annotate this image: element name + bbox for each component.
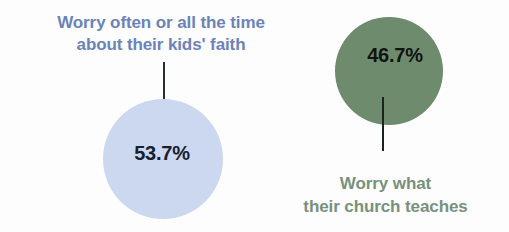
green-label-line-1: Worry what <box>262 172 509 195</box>
green-bubble-value: 46.7% <box>367 44 423 67</box>
blue-label-line-2: about their kids' faith <box>0 34 322 56</box>
green-bubble-worry-church-teaches: 46.7% <box>335 17 443 125</box>
bubble-comparison-chart: Worry often or all the time about their … <box>0 0 509 232</box>
green-leader-line <box>382 97 384 151</box>
blue-bubble-label: Worry often or all the time about their … <box>0 12 322 56</box>
green-bubble-label: Worry what their church teaches <box>262 172 509 218</box>
green-label-line-2: their church teaches <box>262 195 509 218</box>
blue-label-line-1: Worry often or all the time <box>0 12 322 34</box>
blue-bubble-worry-kids-faith: 53.7% <box>103 99 223 219</box>
blue-bubble-value: 53.7% <box>134 142 190 165</box>
